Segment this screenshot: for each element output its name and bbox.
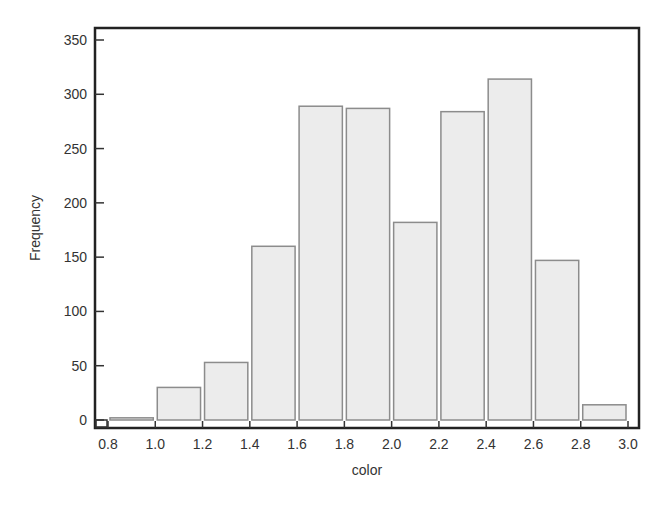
bars-group	[110, 79, 626, 420]
x-axis-title: color	[352, 462, 383, 478]
x-tick-label: 2.4	[476, 436, 496, 452]
histogram-bar	[535, 260, 578, 420]
x-axis: 0.81.01.21.41.61.82.02.22.42.62.83.0	[96, 420, 638, 452]
y-axis-title: Frequency	[27, 195, 43, 261]
x-tick-label: 1.4	[240, 436, 260, 452]
x-tick-label: 1.6	[287, 436, 307, 452]
x-tick-label: 0.8	[98, 436, 118, 452]
histogram-chart: 050100150200250300350 0.81.01.21.41.61.8…	[0, 0, 671, 509]
x-tick-label: 2.6	[524, 436, 544, 452]
histogram-bar	[488, 79, 531, 420]
histogram-bar	[583, 405, 626, 420]
y-tick-label: 300	[64, 86, 88, 102]
x-tick-label: 2.8	[571, 436, 591, 452]
origin-marker	[96, 420, 107, 427]
histogram-bar	[110, 418, 153, 420]
y-tick-label: 350	[64, 32, 88, 48]
x-tick-label: 1.8	[335, 436, 355, 452]
histogram-bar	[252, 246, 295, 420]
y-axis: 050100150200250300350	[64, 32, 104, 428]
histogram-bar	[441, 112, 484, 420]
y-tick-label: 0	[79, 412, 87, 428]
x-tick-label: 2.0	[382, 436, 402, 452]
y-tick-label: 150	[64, 249, 88, 265]
histogram-bar	[205, 362, 248, 420]
x-tick-label: 2.2	[429, 436, 449, 452]
histogram-bar	[157, 387, 200, 420]
x-tick-label: 1.0	[146, 436, 166, 452]
y-tick-label: 100	[64, 303, 88, 319]
histogram-bar	[346, 108, 389, 420]
y-tick-label: 50	[71, 358, 87, 374]
histogram-bar	[394, 222, 437, 420]
histogram-bar	[299, 106, 342, 420]
x-tick-label: 1.2	[193, 436, 213, 452]
y-tick-label: 200	[64, 195, 88, 211]
y-tick-label: 250	[64, 141, 88, 157]
x-tick-label: 3.0	[618, 436, 638, 452]
